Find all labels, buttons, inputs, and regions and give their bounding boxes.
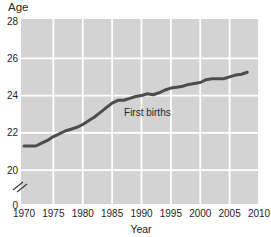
y-tick-label: 20: [0, 164, 18, 177]
x-tick-label: 1985: [97, 207, 127, 220]
axis-break-icon: [10, 177, 30, 194]
y-tick-label: 26: [0, 52, 18, 65]
x-tick-label: 1970: [9, 207, 39, 220]
x-tick-label: 1990: [127, 207, 157, 220]
plot-area: First births: [21, 19, 260, 204]
x-tick-label: 1975: [38, 207, 68, 220]
y-axis-title: Age: [8, 1, 28, 13]
y-tick-label: 22: [0, 126, 18, 139]
x-tick-label: 2005: [215, 207, 245, 220]
y-tick-label: 24: [0, 89, 18, 102]
first-births-age-chart: Age 28262422200 First births 19701975198…: [0, 0, 271, 237]
x-tick-label: 2000: [185, 207, 215, 220]
y-tick-label: 28: [0, 15, 18, 28]
x-axis-title: Year: [118, 223, 164, 235]
x-tick-label: 1995: [156, 207, 186, 220]
x-tick-label: 2010: [244, 207, 271, 220]
x-tick-label: 1980: [68, 207, 98, 220]
series-label-annotation: First births: [124, 107, 171, 118]
